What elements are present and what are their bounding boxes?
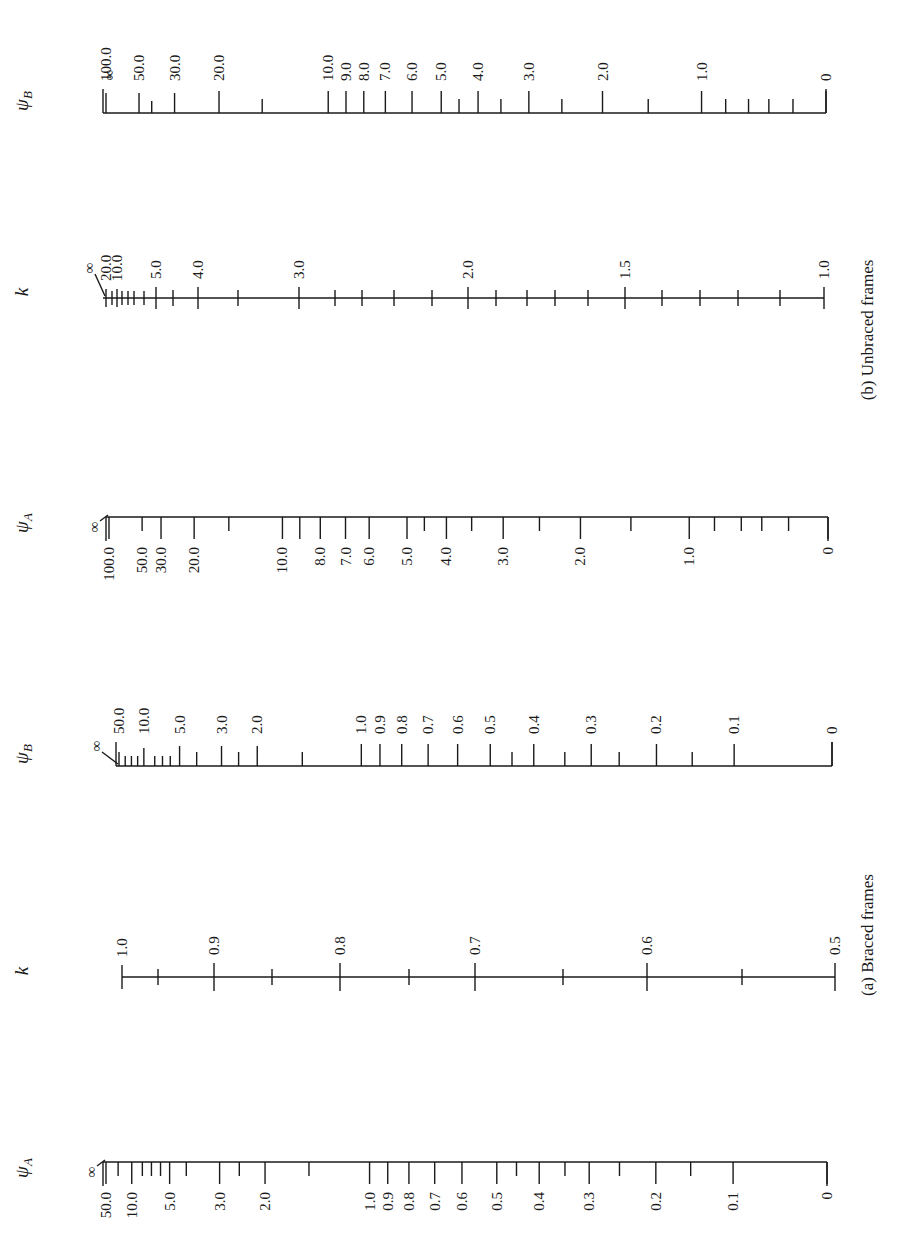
tick-label: 0.6: [639, 936, 655, 955]
tick-label: 30.0: [153, 547, 169, 573]
tick-label: 3.0: [214, 715, 230, 734]
tick-label: 0: [818, 74, 834, 82]
tick-label: 0.3: [581, 1192, 597, 1211]
panel-braced: 50.010.05.03.02.01.00.90.80.70.60.50.40.…: [11, 708, 877, 1219]
tick-label: 1.0: [362, 1192, 378, 1211]
tick-label: 4.0: [190, 260, 206, 279]
axis-title-k: k: [11, 966, 32, 975]
tick-label: 50.0: [134, 547, 150, 573]
tick-label: 1.0: [681, 547, 697, 566]
tick-label: 6.0: [361, 547, 377, 566]
tick-label: 3.0: [291, 260, 307, 279]
caption-unbraced: (b) Unbraced frames: [858, 260, 877, 401]
tick-label: 5.0: [148, 260, 164, 279]
tick-label: 10.0: [136, 708, 152, 734]
tick-label: 9.0: [338, 62, 354, 81]
tick-label: 0.6: [454, 1192, 470, 1211]
tick-label: 0.2: [648, 715, 664, 734]
infinity-label: ∞: [101, 70, 117, 81]
infinity-label: ∞: [88, 741, 104, 752]
tick-label: 0.8: [401, 1192, 417, 1211]
scale-braced-psi_B: 50.010.05.03.02.01.00.90.80.70.60.50.40.…: [11, 708, 840, 766]
tick-label: 1.0: [353, 715, 369, 734]
scale-unbraced-psi_A: 100.050.030.020.010.08.07.06.05.04.03.02…: [11, 513, 836, 581]
scale-braced-k: 1.00.90.80.70.60.5k: [11, 936, 843, 991]
tick-label: 2.0: [249, 715, 265, 734]
axis-title-psi_B: ψB: [11, 91, 35, 111]
tick-label: 5.0: [162, 1192, 178, 1211]
tick-label: 10.0: [274, 547, 290, 573]
tick-label: 0.8: [394, 715, 410, 734]
tick-label: 0.3: [583, 715, 599, 734]
tick-label: 0: [824, 727, 840, 735]
tick-label: 0.7: [420, 715, 436, 734]
tick-label: 1.5: [617, 260, 633, 279]
tick-label: 2.0: [572, 547, 588, 566]
axis-title-psi_B: ψB: [11, 744, 35, 764]
panel-unbraced: 100.050.030.020.010.08.07.06.05.04.03.02…: [11, 47, 877, 581]
tick-label: 0.7: [427, 1192, 443, 1211]
infinity-label: ∞: [83, 1167, 99, 1178]
tick-label: 5.0: [172, 715, 188, 734]
tick-label: 0.5: [827, 936, 843, 955]
scale-braced-psi_A: 50.010.05.03.02.01.00.90.80.70.60.50.40.…: [11, 1158, 835, 1218]
tick-label: 8.0: [312, 547, 328, 566]
scale-unbraced-psi_B: 100.050.030.020.010.09.08.07.06.05.04.03…: [11, 47, 834, 113]
tick-label: 30.0: [167, 55, 183, 81]
alignment-chart: 50.010.05.03.02.01.00.90.80.70.60.50.40.…: [0, 0, 899, 1237]
tick-label: 0.4: [526, 715, 542, 734]
tick-label: 50.0: [98, 1192, 114, 1218]
tick-label: 7.0: [338, 547, 354, 566]
tick-label: 0: [819, 1192, 835, 1200]
tick-label: 1.0: [694, 62, 710, 81]
tick-label: 0.9: [206, 936, 222, 955]
tick-label: 3.0: [521, 62, 537, 81]
tick-label: 10.0: [124, 1192, 140, 1218]
tick-label: 50.0: [131, 55, 147, 81]
caption-braced: (a) Braced frames: [858, 874, 877, 996]
tick-label: 2.0: [460, 260, 476, 279]
tick-label: 6.0: [404, 62, 420, 81]
tick-label: 4.0: [438, 547, 454, 566]
tick-label: 3.0: [212, 1192, 228, 1211]
tick-label: 10.0: [320, 55, 336, 81]
tick-label: 0.2: [648, 1192, 664, 1211]
axis-title-psi_A: ψA: [11, 1158, 35, 1178]
infinity-label: ∞: [86, 522, 102, 533]
axis-title-psi_A: ψA: [11, 513, 35, 533]
tick-label: 0.1: [725, 1192, 741, 1211]
tick-label: 1.0: [114, 938, 130, 957]
tick-label: 0.5: [489, 1192, 505, 1211]
tick-label: 100.0: [101, 547, 117, 581]
tick-label: 0.1: [726, 715, 742, 734]
tick-label: 20.0: [211, 55, 227, 81]
tick-label: 5.0: [399, 547, 415, 566]
tick-label: 0.7: [467, 936, 483, 955]
tick-label: 0.4: [531, 1192, 547, 1211]
tick-label: 20.0: [186, 547, 202, 573]
tick-label: 4.0: [470, 62, 486, 81]
scale-unbraced-k: 20.010.05.04.03.02.01.51.0∞k: [11, 255, 832, 309]
axis-title-k: k: [11, 287, 32, 296]
tick-label: 0.6: [450, 715, 466, 734]
tick-label: 8.0: [356, 62, 372, 81]
tick-label: 0.9: [372, 715, 388, 734]
infinity-label: ∞: [81, 263, 97, 274]
tick-label: 50.0: [111, 708, 127, 734]
tick-label: 0.9: [380, 1192, 396, 1211]
tick-label: 0.5: [482, 715, 498, 734]
tick-label: 0.8: [332, 936, 348, 955]
tick-label: 7.0: [377, 62, 393, 81]
tick-label: 2.0: [257, 1192, 273, 1211]
tick-label: 10.0: [109, 255, 125, 281]
tick-label: 0: [820, 547, 836, 555]
infinity-leader: [100, 515, 108, 521]
tick-label: 1.0: [816, 260, 832, 279]
infinity-leader: [97, 1160, 105, 1166]
tick-label: 3.0: [495, 547, 511, 566]
tick-label: 2.0: [595, 62, 611, 81]
tick-label: 5.0: [433, 62, 449, 81]
